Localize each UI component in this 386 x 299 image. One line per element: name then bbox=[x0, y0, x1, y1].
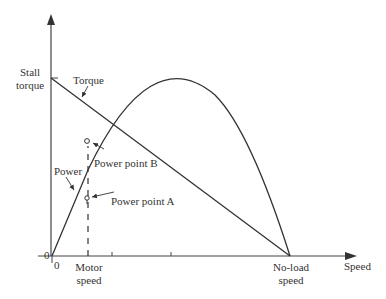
no-load-speed-label-line1: No-load bbox=[268, 261, 314, 274]
stall-torque-label-line1: Stall bbox=[16, 66, 44, 79]
power-curve-label: Power bbox=[54, 165, 82, 178]
no-load-speed-label-line2: speed bbox=[268, 274, 314, 287]
motor-characteristic-diagram bbox=[0, 0, 386, 299]
power-point-a-marker bbox=[85, 196, 89, 200]
speed-axis-label: Speed bbox=[344, 260, 371, 273]
origin-y-label: 0 bbox=[44, 249, 50, 262]
torque-curve-label: Torque bbox=[73, 74, 104, 87]
origin-x-label: 0 bbox=[54, 259, 60, 272]
stall-torque-label-line2: torque bbox=[16, 79, 44, 92]
x-axis-arrow-icon bbox=[345, 252, 357, 260]
torque-line bbox=[51, 78, 290, 256]
power-point-b-label: Power point B bbox=[94, 157, 158, 170]
motor-speed-label-line1: Motor bbox=[73, 261, 105, 274]
motor-speed-label: Motor speed bbox=[73, 261, 105, 287]
power-point-a-label: Power point A bbox=[111, 195, 175, 208]
no-load-speed-label: No-load speed bbox=[268, 261, 314, 287]
torque-leader-arrow-icon bbox=[82, 86, 88, 97]
motor-speed-label-line2: speed bbox=[73, 274, 105, 287]
y-axis-arrow-icon bbox=[47, 14, 55, 25]
stall-torque-label: Stall torque bbox=[16, 66, 44, 92]
power-leader-arrow-icon bbox=[66, 177, 74, 190]
power-point-b-marker bbox=[85, 139, 90, 144]
